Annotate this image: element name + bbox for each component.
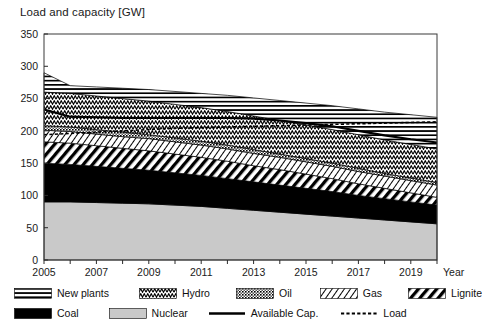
y-tick-label: 300 xyxy=(20,60,38,72)
x-tick-label: 2013 xyxy=(242,266,266,278)
y-tick-label: 50 xyxy=(26,222,38,234)
x-tick-label: 2005 xyxy=(32,266,56,278)
legend-item-label: Oil xyxy=(279,287,292,299)
x-axis-label: Year xyxy=(443,266,465,278)
legend-item-label: Load xyxy=(383,307,406,319)
legend-item-label: New plants xyxy=(57,287,109,299)
y-tick-label: 200 xyxy=(20,125,38,137)
legend-item-label: Available Cap. xyxy=(251,307,319,319)
legend-item-gas[interactable]: Gas xyxy=(320,287,382,299)
legend-row-secondary: CoalNuclearAvailable Cap.Load xyxy=(0,303,470,323)
y-tick-label: 250 xyxy=(20,92,38,104)
legend-item-load[interactable]: Load xyxy=(340,307,406,319)
legend-item-label: Gas xyxy=(363,287,382,299)
legend-row-primary: New plantsHydroOilGasLignite xyxy=(0,283,470,303)
y-tick-label: 100 xyxy=(20,189,38,201)
legend-swatch-solid-black xyxy=(14,308,52,319)
legend-item-coal[interactable]: Coal xyxy=(14,307,79,319)
x-tick-label: 2007 xyxy=(85,266,109,278)
x-tick-label: 2017 xyxy=(347,266,371,278)
legend-swatch-solid-light-gray xyxy=(109,308,147,319)
legend-item-new-plants[interactable]: New plants xyxy=(14,287,109,299)
legend-swatch-line-solid xyxy=(208,308,246,319)
y-tick-label: 0 xyxy=(32,254,38,266)
y-tick-label: 150 xyxy=(20,157,38,169)
legend-swatch-zigzag xyxy=(139,288,177,299)
legend-swatch-diagonal-thin xyxy=(320,288,358,299)
legend-item-nuclear[interactable]: Nuclear xyxy=(109,307,188,319)
x-tick-label: 2019 xyxy=(399,266,423,278)
legend-item-label: Hydro xyxy=(182,287,210,299)
x-tick-label: 2011 xyxy=(190,266,213,278)
stacked-area-bands xyxy=(44,73,437,260)
x-tick-label: 2009 xyxy=(137,266,161,278)
legend-item-label: Nuclear xyxy=(152,307,188,319)
chart-legend: New plantsHydroOilGasLignite CoalNuclear… xyxy=(0,283,470,327)
x-tick-label: 2015 xyxy=(294,266,318,278)
legend-item-oil[interactable]: Oil xyxy=(236,287,292,299)
chart-plot-area: 0501001502002503003502005200720092011201… xyxy=(0,0,470,290)
legend-swatch-diagonal-thick xyxy=(408,288,446,299)
legend-swatch-horizontal-lines xyxy=(14,288,52,299)
legend-item-label: Lignite xyxy=(451,287,482,299)
legend-swatch-line-dashed xyxy=(340,308,378,319)
legend-item-lignite[interactable]: Lignite xyxy=(408,287,482,299)
legend-item-label: Coal xyxy=(57,307,79,319)
y-tick-label: 350 xyxy=(20,28,38,40)
legend-item-hydro[interactable]: Hydro xyxy=(139,287,210,299)
legend-item-available-cap-[interactable]: Available Cap. xyxy=(208,307,319,319)
legend-swatch-dense-dots xyxy=(236,288,274,299)
